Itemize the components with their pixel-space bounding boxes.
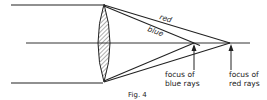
blue-focus-label-line1: focus of [165, 70, 195, 79]
figure-caption: Fig. 4 [128, 91, 147, 99]
red-focus-label-line2: red rays [229, 79, 260, 88]
blue-ray-label: blue [146, 24, 165, 38]
red-focus-arrow [229, 44, 234, 70]
convex-lens [98, 4, 110, 82]
red-ray-label: red [158, 12, 173, 24]
blue-focus-arrow [192, 44, 197, 70]
blue-focus-label-line2: blue rays [165, 79, 200, 88]
chromatic-aberration-diagram: red blue focus of blue rays focus of red… [0, 0, 267, 100]
red-ray-top [104, 5, 230, 43]
red-focus-label-line1: focus of [229, 70, 259, 79]
